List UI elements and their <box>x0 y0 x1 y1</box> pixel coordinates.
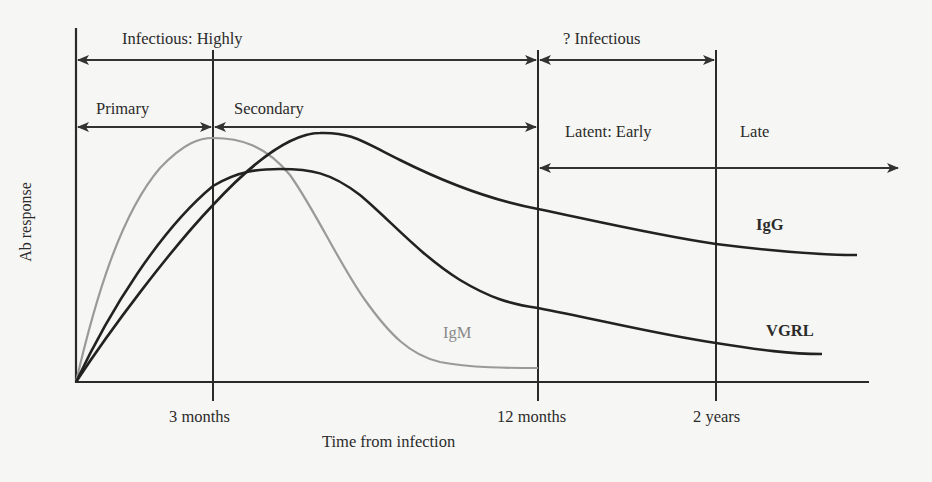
vgrl-curve <box>76 169 822 382</box>
igg-curve <box>76 133 857 382</box>
y-axis-label: Ab response <box>17 182 35 262</box>
label-igg: IgG <box>756 215 784 235</box>
x-axis-label: Time from infection <box>322 432 455 452</box>
label-primary: Primary <box>96 99 149 119</box>
tick-12-months: 12 months <box>497 407 566 427</box>
tick-2-years: 2 years <box>693 407 740 427</box>
label-secondary: Secondary <box>234 99 304 119</box>
label-maybe-infectious: ? Infectious <box>563 29 640 49</box>
label-latent-early: Latent: Early <box>565 122 652 142</box>
tick-3-months: 3 months <box>169 407 230 427</box>
label-infectious-highly: Infectious: Highly <box>122 29 243 49</box>
label-late: Late <box>740 122 769 142</box>
label-vgrl: VGRL <box>766 321 814 341</box>
antibody-response-diagram <box>0 0 932 482</box>
label-igm: IgM <box>443 323 471 343</box>
